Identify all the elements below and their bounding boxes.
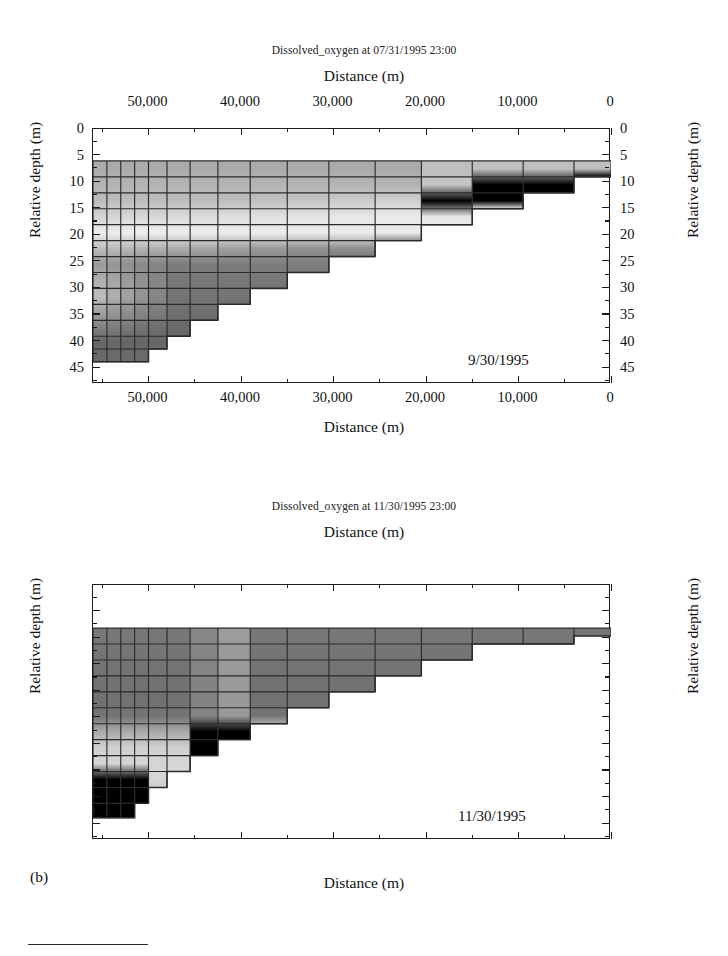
- y-minor-tick: [93, 730, 97, 731]
- x-major-tick: [333, 832, 334, 839]
- panel-b-november: Dissolved_oxygen at 11/30/1995 23:00 Dis…: [0, 470, 728, 940]
- y-major-tick: [93, 584, 100, 585]
- y-tick-label-left: 45: [52, 359, 84, 376]
- water-column-cell: [107, 628, 121, 818]
- y-minor-tick: [93, 327, 97, 328]
- y-major-tick: [93, 340, 100, 341]
- y-tick-label-left: 35: [52, 305, 84, 322]
- x-major-tick: [426, 376, 427, 383]
- x-minor-tick: [287, 128, 288, 132]
- x-tick-label-bottom: 30,000: [313, 389, 353, 406]
- y-minor-tick: [605, 220, 609, 221]
- water-column-cell: [93, 628, 107, 818]
- y-minor-tick: [605, 756, 609, 757]
- y-minor-tick: [93, 300, 97, 301]
- y-major-tick: [602, 287, 609, 288]
- x-major-tick: [611, 128, 612, 135]
- y-minor-tick: [93, 623, 97, 624]
- y-minor-tick: [93, 809, 97, 810]
- y-tick-label-right: 45: [620, 359, 652, 376]
- panel-a-bottom-axis-title: Distance (m): [0, 418, 728, 436]
- y-minor-tick: [93, 597, 97, 598]
- y-tick-label-right: 15: [620, 199, 652, 216]
- water-column-cell: [167, 628, 190, 771]
- y-major-tick: [93, 154, 100, 155]
- panel-a-date-annotation: 9/30/1995: [468, 352, 529, 369]
- y-tick-label-left: 0: [52, 120, 84, 137]
- panel-b-chart-title: Dissolved_oxygen at 11/30/1995 23:00: [0, 500, 728, 512]
- water-column-cell: [218, 161, 250, 304]
- y-minor-tick: [93, 836, 97, 837]
- x-major-tick: [148, 376, 149, 383]
- x-major-tick: [148, 128, 149, 135]
- y-major-tick: [93, 743, 100, 744]
- y-tick-label-left: 15: [52, 199, 84, 216]
- y-major-tick: [602, 743, 609, 744]
- x-minor-tick: [194, 835, 195, 839]
- y-minor-tick: [605, 650, 609, 651]
- x-minor-tick: [194, 584, 195, 588]
- y-major-tick: [602, 637, 609, 638]
- x-minor-tick: [379, 584, 380, 588]
- x-tick-label-top: 40,000: [220, 93, 260, 110]
- y-major-tick: [602, 663, 609, 664]
- y-major-tick: [93, 287, 100, 288]
- y-minor-tick: [605, 623, 609, 624]
- x-major-tick: [333, 376, 334, 383]
- y-tick-label-left: 10: [52, 173, 84, 190]
- water-column-cell: [472, 161, 523, 209]
- y-major-tick: [602, 260, 609, 261]
- y-major-tick: [602, 340, 609, 341]
- panel-a-left-axis-title: Relative depth (m): [26, 30, 44, 330]
- y-major-tick: [93, 716, 100, 717]
- water-column-cell: [472, 628, 523, 644]
- y-tick-label-right: 40: [620, 332, 652, 349]
- y-major-tick: [602, 690, 609, 691]
- bathymetry-columns: [93, 161, 611, 362]
- x-major-tick: [611, 832, 612, 839]
- y-minor-tick: [93, 220, 97, 221]
- x-tick-label-top: 0: [606, 93, 613, 110]
- y-minor-tick: [605, 300, 609, 301]
- y-minor-tick: [93, 650, 97, 651]
- x-major-tick: [426, 832, 427, 839]
- figure-dissolved-oxygen-transects: Dissolved_oxygen at 07/31/1995 23:00 Dis…: [0, 0, 728, 956]
- y-tick-label-right: 35: [620, 305, 652, 322]
- water-column-cell: [121, 161, 135, 362]
- y-minor-tick: [605, 274, 609, 275]
- y-major-tick: [93, 663, 100, 664]
- y-minor-tick: [605, 730, 609, 731]
- y-minor-tick: [605, 247, 609, 248]
- x-minor-tick: [472, 835, 473, 839]
- y-major-tick: [602, 367, 609, 368]
- water-column-cell: [121, 628, 135, 818]
- x-major-tick: [518, 128, 519, 135]
- x-major-tick: [241, 376, 242, 383]
- x-tick-label-top: 20,000: [405, 93, 445, 110]
- x-major-tick: [611, 376, 612, 383]
- y-major-tick: [93, 313, 100, 314]
- panel-a-data-raster: [93, 128, 611, 383]
- y-major-tick: [602, 207, 609, 208]
- x-minor-tick: [472, 128, 473, 132]
- y-major-tick: [602, 796, 609, 797]
- x-major-tick: [333, 584, 334, 591]
- y-major-tick: [93, 796, 100, 797]
- panel-b-bottom-axis-title: Distance (m): [0, 874, 728, 892]
- x-minor-tick: [379, 835, 380, 839]
- x-tick-label-top: 50,000: [128, 93, 168, 110]
- panel-a-plot-area: [92, 128, 610, 383]
- water-column-cell: [574, 628, 611, 636]
- x-major-tick: [148, 832, 149, 839]
- x-major-tick: [518, 584, 519, 591]
- x-minor-tick: [194, 128, 195, 132]
- y-major-tick: [93, 207, 100, 208]
- x-minor-tick: [102, 379, 103, 383]
- bathymetry-columns: [93, 628, 611, 818]
- x-minor-tick: [287, 379, 288, 383]
- y-minor-tick: [93, 274, 97, 275]
- x-minor-tick: [194, 379, 195, 383]
- panel-label-b: (b): [30, 868, 48, 886]
- y-minor-tick: [93, 141, 97, 142]
- x-minor-tick: [472, 584, 473, 588]
